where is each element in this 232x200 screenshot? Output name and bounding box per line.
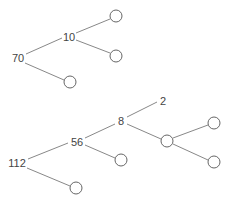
edge-70-leaf bbox=[25, 63, 64, 80]
edge-112-leaf bbox=[27, 168, 70, 186]
blank-node-circle bbox=[161, 135, 173, 147]
node-112: 112 bbox=[8, 157, 26, 169]
tree-1-nodes: 70 10 bbox=[12, 10, 122, 88]
blank-node-circle bbox=[115, 154, 127, 166]
factor-tree-diagram: 70 10 112 56 8 2 bbox=[0, 0, 232, 200]
blank-node-circle bbox=[64, 76, 76, 88]
blank-node-circle bbox=[70, 182, 82, 194]
blank-node-circle bbox=[110, 50, 122, 62]
edge-blank-leaf-bottom bbox=[173, 144, 208, 160]
node-56: 56 bbox=[71, 136, 83, 148]
node-10: 10 bbox=[63, 31, 75, 43]
blank-node-circle bbox=[110, 10, 122, 22]
edge-70-10 bbox=[26, 38, 62, 54]
tree-2-nodes: 112 56 8 2 bbox=[8, 95, 220, 194]
edge-blank-leaf-top bbox=[173, 125, 208, 138]
blank-node-circle bbox=[208, 156, 220, 168]
edge-112-56 bbox=[28, 143, 68, 159]
edge-10-leaf-top bbox=[76, 19, 110, 33]
edge-8-blank bbox=[127, 124, 161, 139]
edge-8-2 bbox=[127, 102, 157, 117]
edge-10-leaf-bottom bbox=[76, 40, 110, 53]
node-8: 8 bbox=[118, 115, 124, 127]
edge-56-8 bbox=[85, 124, 115, 138]
tree-1-edges bbox=[25, 19, 110, 80]
blank-node-circle bbox=[208, 117, 220, 129]
edge-56-leaf bbox=[85, 145, 115, 158]
node-2: 2 bbox=[160, 95, 166, 107]
node-70: 70 bbox=[12, 52, 24, 64]
